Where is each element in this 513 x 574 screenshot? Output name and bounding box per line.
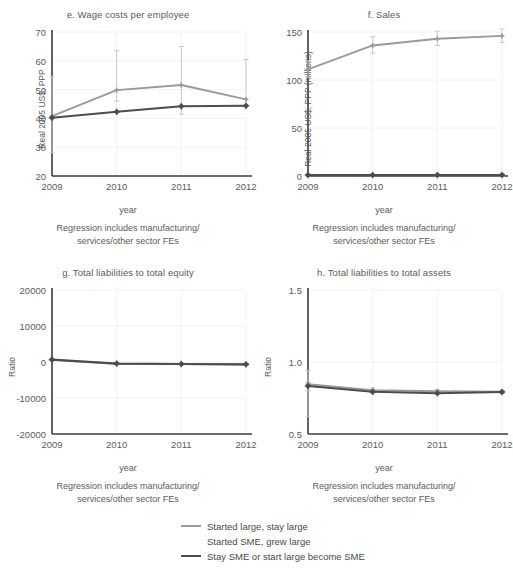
legend-item[interactable]: Stay SME or start large become SME <box>181 548 365 564</box>
panel-h-title: h. Total liabilities to total assets <box>256 267 512 278</box>
panel-h-svg <box>256 282 512 452</box>
panel-f-plot-area: Real 2005 US$, PPP (millions) 050100150 <box>256 24 512 194</box>
legend-item-label: Started SME, grew large <box>207 536 311 547</box>
panel-h-plot-area: Ratio 0.51.01.5 <box>256 282 512 452</box>
panel-e-x-axis-label: year <box>0 205 256 215</box>
series-markers-1 <box>305 383 505 397</box>
x-tick-label: 2010 <box>106 439 127 450</box>
panel-g-title: g. Total liabilities to total equity <box>0 267 256 278</box>
panel-g-note-line1: Regression includes manufacturing/ <box>56 481 199 491</box>
series-line-0 <box>308 36 502 70</box>
panel-f-x-axis-label: year <box>256 205 512 215</box>
panel-f-note: Regression includes manufacturing/ servi… <box>256 222 512 247</box>
panel-g-note-line2: services/other sector FEs <box>77 494 179 504</box>
panel-h-note-line2: services/other sector FEs <box>333 494 435 504</box>
panel-g-plot-area: Ratio -20000-1000001000020000 <box>0 282 256 452</box>
x-tick-label: 2009 <box>297 181 318 192</box>
panel-f: f. Sales Real 2005 US$, PPP (millions) 0… <box>256 0 512 258</box>
panel-e-note: Regression includes manufacturing/ servi… <box>0 222 256 247</box>
panel-f-note-line1: Regression includes manufacturing/ <box>312 223 455 233</box>
panel-h-note: Regression includes manufacturing/ servi… <box>256 480 512 505</box>
panel-e-title: e. Wage costs per employee <box>0 9 256 20</box>
x-tick-label: 2010 <box>106 181 127 192</box>
panel-g-note: Regression includes manufacturing/ servi… <box>0 480 256 505</box>
x-tick-label: 2011 <box>427 439 447 450</box>
x-tick-label: 2010 <box>362 439 383 450</box>
panel-f-title: f. Sales <box>256 9 512 20</box>
x-tick-label: 2009 <box>41 439 62 450</box>
x-tick-label: 2011 <box>171 439 191 450</box>
x-tick-label: 2009 <box>297 439 318 450</box>
legend-swatch-icon <box>181 540 201 542</box>
legend-swatch-icon <box>181 555 201 557</box>
panel-h-note-line1: Regression includes manufacturing/ <box>312 481 455 491</box>
panel-f-note-line2: services/other sector FEs <box>333 236 435 246</box>
series-line-1 <box>52 106 246 118</box>
panel-g: g. Total liabilities to total equity Rat… <box>0 258 256 516</box>
chart-panels: e. Wage costs per employee Real 2005 US$… <box>0 0 512 516</box>
series-markers-0 <box>306 33 505 71</box>
legend-item-label: Started large, stay large <box>207 521 308 532</box>
panel-h: h. Total liabilities to total assets Rat… <box>256 258 512 516</box>
x-tick-label: 2011 <box>171 181 191 192</box>
legend-item[interactable]: Started large, stay large <box>181 518 308 534</box>
panel-e-note-line1: Regression includes manufacturing/ <box>56 223 199 233</box>
x-tick-label: 2009 <box>41 181 62 192</box>
panel-f-svg <box>256 24 512 194</box>
panel-e-plot-area: Real 2005 US$, PPP 203040506070 <box>0 24 256 194</box>
x-tick-label: 2012 <box>235 439 256 450</box>
x-tick-label: 2012 <box>491 439 512 450</box>
x-tick-label: 2012 <box>235 181 256 192</box>
error-bars-series-0 <box>305 371 504 417</box>
panel-g-x-axis-label: year <box>0 463 256 473</box>
panel-e-svg <box>0 24 256 194</box>
legend-swatch-icon <box>181 525 201 527</box>
x-tick-label: 2010 <box>362 181 383 192</box>
panel-g-svg <box>0 282 256 452</box>
x-tick-label: 2011 <box>427 181 447 192</box>
panel-e: e. Wage costs per employee Real 2005 US$… <box>0 0 256 258</box>
legend-item[interactable]: Started SME, grew large <box>181 533 311 549</box>
panel-e-note-line2: services/other sector FEs <box>77 236 179 246</box>
figure-legend: Started large, stay largeStarted SME, gr… <box>0 512 512 574</box>
x-tick-label: 2012 <box>491 181 512 192</box>
legend-item-label: Stay SME or start large become SME <box>207 551 365 562</box>
error-bars-series-0 <box>49 46 248 153</box>
panel-h-x-axis-label: year <box>256 463 512 473</box>
